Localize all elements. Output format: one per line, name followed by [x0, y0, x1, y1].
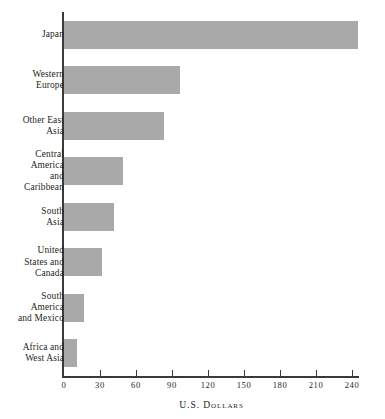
- x-axis-tick: [352, 370, 353, 377]
- bar-chart: JapanWesternEuropeOther EastAsiaCentralA…: [0, 0, 385, 419]
- x-axis-tick-label: 60: [116, 380, 156, 390]
- x-axis-tick: [208, 370, 209, 377]
- x-axis-tick-label: 240: [332, 380, 372, 390]
- category-label-line: Canada: [6, 268, 64, 279]
- category-label: Japan: [6, 29, 64, 40]
- category-label: WesternEurope: [6, 69, 64, 91]
- bar: [64, 203, 114, 231]
- category-label: Other EastAsia: [6, 115, 64, 137]
- x-axis-tick: [280, 370, 281, 377]
- category-label-line: and Mexico: [6, 313, 64, 324]
- x-axis-tick-label: 210: [296, 380, 336, 390]
- bar: [64, 294, 84, 322]
- category-label: CentralAmericaandCaribbean: [6, 149, 64, 194]
- category-label-line: Caribbean: [6, 182, 64, 193]
- x-axis-tick: [316, 370, 317, 377]
- x-axis-tick: [136, 370, 137, 377]
- category-label: SouthAmericaand Mexico: [6, 291, 64, 325]
- x-axis-line: [62, 376, 359, 378]
- bar: [64, 21, 358, 49]
- category-label-line: Other East: [6, 115, 64, 126]
- x-axis-tick: [172, 370, 173, 377]
- category-label: SouthAsia: [6, 206, 64, 228]
- category-label: UnitedStates andCanada: [6, 245, 64, 279]
- category-label-line: Asia: [6, 217, 64, 228]
- category-label-line: Japan: [6, 29, 64, 40]
- x-axis-tick: [244, 370, 245, 377]
- category-label: Africa andWest Asia: [6, 342, 64, 364]
- x-axis-tick-label: 180: [260, 380, 300, 390]
- category-label-line: America: [6, 302, 64, 313]
- x-axis-tick-label: 90: [152, 380, 192, 390]
- x-axis-tick-label: 0: [44, 380, 84, 390]
- category-label-line: West Asia: [6, 353, 64, 364]
- category-label-line: Central: [6, 149, 64, 160]
- x-axis-title: U.S. Dollars: [0, 399, 385, 410]
- x-axis-tick-label: 120: [188, 380, 228, 390]
- category-label-line: Asia: [6, 126, 64, 137]
- category-label-line: South: [6, 206, 64, 217]
- category-label-line: and: [6, 171, 64, 182]
- x-axis-tick-label: 150: [224, 380, 264, 390]
- bar: [64, 339, 77, 367]
- category-label-line: South: [6, 291, 64, 302]
- x-axis-tick-label: 30: [80, 380, 120, 390]
- category-label-line: Europe: [6, 80, 64, 91]
- category-label-line: America: [6, 160, 64, 171]
- bar: [64, 66, 180, 94]
- bar: [64, 112, 164, 140]
- bar: [64, 157, 123, 185]
- category-label-line: Western: [6, 69, 64, 80]
- category-label-line: States and: [6, 257, 64, 268]
- x-axis-tick: [100, 370, 101, 377]
- bar: [64, 248, 102, 276]
- category-label-line: United: [6, 245, 64, 256]
- category-label-line: Africa and: [6, 342, 64, 353]
